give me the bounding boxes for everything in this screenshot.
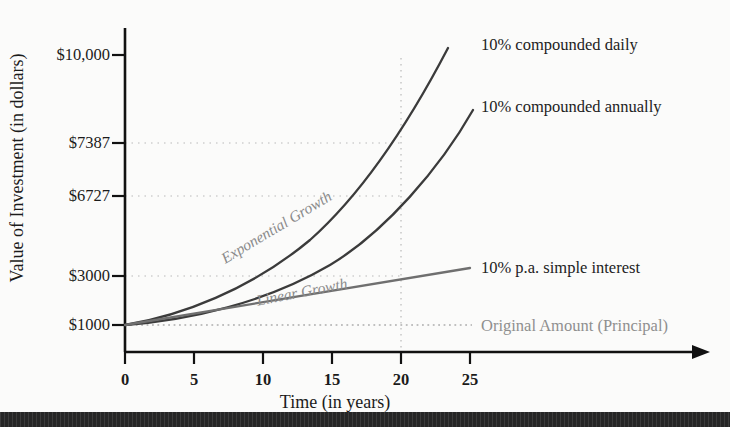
x-tick-label-25: 25 <box>450 372 490 389</box>
x-tick-label-0: 0 <box>105 372 145 389</box>
x-tick-label-15: 15 <box>312 372 352 389</box>
chart-figure: Value of Investment (in dollars) $10,000… <box>0 0 730 427</box>
bottom-edge-band <box>0 412 730 427</box>
x-tick-label-20: 20 <box>381 372 421 389</box>
y-tick-label-3000: $3000 <box>10 268 110 285</box>
y-axis-ticks <box>112 55 125 325</box>
y-tick-label-6727: $6727 <box>10 188 110 205</box>
series-label-compounded-annually: 10% compounded annually <box>481 97 662 117</box>
series-label-compounded-daily: 10% compounded daily <box>481 35 638 55</box>
x-tick-label-5: 5 <box>174 372 214 389</box>
x-axis-arrow <box>692 345 710 359</box>
x-axis-ticks <box>125 352 470 364</box>
y-tick-label-1000: $1000 <box>10 317 110 334</box>
curve-compounded-daily <box>125 48 448 325</box>
chart-plot-area <box>0 0 730 427</box>
y-tick-label-10000: $10,000 <box>10 47 110 64</box>
gridlines <box>125 143 402 276</box>
x-tick-label-10: 10 <box>243 372 283 389</box>
y-tick-label-7387: $7387 <box>10 135 110 152</box>
x-axis-title: Time (in years) <box>230 393 440 411</box>
series-label-simple-interest: 10% p.a. simple interest <box>481 258 640 278</box>
series-label-principal: Original Amount (Principal) <box>481 316 668 336</box>
